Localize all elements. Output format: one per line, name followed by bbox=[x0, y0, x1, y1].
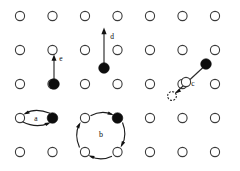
lattice-site bbox=[145, 45, 154, 54]
lattice-site bbox=[145, 113, 154, 122]
lattice-site bbox=[80, 113, 89, 122]
mechanism-d-group bbox=[99, 28, 110, 74]
lattice-site bbox=[181, 77, 190, 86]
lattice-site bbox=[145, 79, 154, 88]
lattice-site bbox=[210, 79, 219, 88]
lattice-site bbox=[210, 11, 219, 20]
adatom bbox=[201, 59, 212, 70]
figure-canvas: a b c d e bbox=[0, 0, 240, 171]
lattice-site bbox=[178, 147, 187, 156]
lattice-site bbox=[113, 45, 122, 54]
mechanism-d-arrowhead-icon bbox=[101, 28, 106, 35]
lattice-site bbox=[210, 147, 219, 156]
mechanism-label-c: c bbox=[191, 79, 195, 88]
mechanism-b-arrowhead-right-icon bbox=[121, 141, 126, 148]
adatom bbox=[99, 63, 110, 74]
lattice-site bbox=[15, 45, 24, 54]
lattice-site bbox=[145, 11, 154, 20]
lattice-site bbox=[48, 45, 57, 54]
ghost-site-icon bbox=[168, 92, 177, 101]
diffusion-mechanism-figure: a b c d e bbox=[0, 0, 240, 171]
mechanism-b-arrowhead-bottom-icon bbox=[88, 155, 95, 159]
adatom bbox=[112, 113, 123, 124]
lattice-site bbox=[178, 113, 187, 122]
mechanism-label-b: b bbox=[99, 130, 103, 139]
mechanism-label-a: a bbox=[34, 114, 38, 123]
lattice-site bbox=[80, 147, 89, 156]
lattice-site bbox=[80, 45, 89, 54]
adatom bbox=[49, 79, 60, 90]
mechanism-label-e: e bbox=[59, 54, 63, 63]
lattice-site bbox=[178, 45, 187, 54]
lattice-site bbox=[15, 113, 24, 122]
lattice-site bbox=[15, 11, 24, 20]
lattice-site bbox=[113, 79, 122, 88]
lattice-site bbox=[15, 79, 24, 88]
lattice-site bbox=[80, 79, 89, 88]
lattice-site bbox=[210, 45, 219, 54]
lattice-site bbox=[178, 11, 187, 20]
mechanism-e-group bbox=[49, 55, 60, 90]
lattice-site bbox=[80, 11, 89, 20]
mechanism-b-arrowhead-top-icon bbox=[107, 111, 114, 115]
adatom bbox=[47, 113, 58, 124]
lattice-site bbox=[113, 147, 122, 156]
mechanism-b-arrowhead-left-icon bbox=[76, 122, 81, 129]
lattice-site bbox=[113, 11, 122, 20]
lattice-site bbox=[48, 11, 57, 20]
mechanism-a-group bbox=[23, 110, 58, 126]
mechanism-e-arrowhead-icon bbox=[52, 55, 57, 61]
lattice-site bbox=[145, 147, 154, 156]
mechanism-label-d: d bbox=[110, 32, 114, 41]
lattice-site bbox=[210, 113, 219, 122]
mechanism-c-arrowhead-icon bbox=[175, 89, 181, 93]
mechanism-c-group bbox=[168, 59, 212, 101]
lattice-site bbox=[15, 147, 24, 156]
lattice-site bbox=[48, 147, 57, 156]
